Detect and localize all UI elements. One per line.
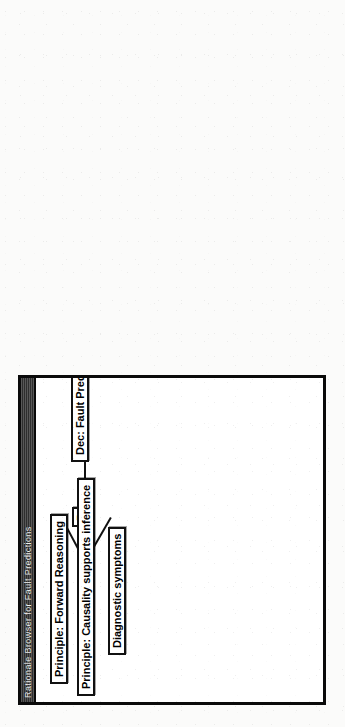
- rotated-figure-canvas: Rationale Browser for Fault Predictions …: [0, 0, 345, 727]
- node-symptoms-label: Diagnostic symptoms: [111, 534, 123, 648]
- window-rationale-browser[interactable]: Rationale Browser for Fault Predictions …: [18, 375, 326, 705]
- node-decision-fault-predictions[interactable]: Dec: Fault Predictions: [71, 378, 89, 462]
- node-decision-label: Dec: Fault Predictions: [74, 378, 86, 455]
- window-title-rationale-browser: Rationale Browser for Fault Predictions: [23, 526, 33, 698]
- node-causality-label: Principle: Causality supports inference: [80, 485, 92, 689]
- node-principle-causality-supports-inference[interactable]: Principle: Causality supports inference: [77, 478, 95, 696]
- scanned-page-background: Rationale Browser for Fault Predictions …: [0, 0, 345, 727]
- titlebar-rationale-browser[interactable]: Rationale Browser for Fault Predictions: [21, 378, 36, 702]
- node-forward-reasoning-label: Principle: Forward Reasoning: [53, 521, 65, 677]
- node-diagnostic-symptoms[interactable]: Diagnostic symptoms: [108, 527, 126, 655]
- node-principle-forward-reasoning[interactable]: Principle: Forward Reasoning: [50, 514, 68, 684]
- graph-canvas[interactable]: Dec: Fault Predictions R Principle: Forw…: [36, 378, 323, 702]
